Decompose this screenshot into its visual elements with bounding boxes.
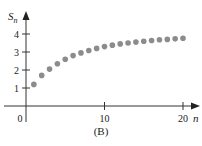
figure-caption: (B) — [0, 125, 202, 137]
y-tick-label: 3 — [14, 47, 19, 58]
data-point — [62, 56, 68, 62]
y-axis-label: Sn — [8, 10, 18, 25]
data-point — [125, 40, 131, 46]
x-tick-label: 10 — [100, 113, 110, 124]
data-point — [133, 39, 139, 45]
data-point — [55, 61, 61, 67]
y-tick-label: 4 — [14, 29, 19, 40]
data-point — [110, 42, 116, 48]
data-point — [78, 50, 84, 56]
data-point — [94, 46, 100, 52]
data-point — [70, 53, 76, 59]
data-point — [86, 48, 92, 54]
y-ticks: 1234 — [14, 29, 30, 94]
data-points — [31, 36, 186, 88]
data-point — [165, 37, 171, 43]
x-axis-label: n — [193, 112, 199, 124]
data-point — [102, 44, 108, 50]
y-tick-label: 2 — [14, 65, 19, 76]
x-tick-label: 20 — [178, 113, 188, 124]
x-ticks: 01020 — [18, 102, 189, 124]
data-point — [117, 41, 123, 47]
x-tick-label: 0 — [18, 113, 23, 124]
data-point — [180, 36, 186, 42]
data-point — [157, 37, 163, 43]
data-point — [149, 38, 155, 44]
data-point — [172, 36, 178, 42]
data-point — [31, 82, 37, 88]
y-axis-arrow-icon — [23, 11, 30, 20]
y-tick-label: 1 — [14, 83, 19, 94]
data-point — [47, 66, 53, 72]
data-point — [39, 73, 45, 79]
x-axis-arrow-icon — [191, 103, 200, 110]
data-point — [141, 38, 147, 44]
